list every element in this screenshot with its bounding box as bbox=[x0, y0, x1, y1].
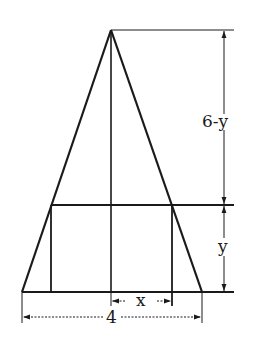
triangle-left-side bbox=[22, 30, 111, 292]
label-y: y bbox=[217, 236, 228, 256]
triangle-rectangle-diagram: 6-y y x 4 bbox=[0, 0, 253, 338]
label-x: x bbox=[136, 290, 146, 310]
label-4: 4 bbox=[106, 307, 117, 327]
label-6-y: 6-y bbox=[202, 111, 229, 131]
triangle-right-side bbox=[111, 30, 202, 292]
triangle bbox=[22, 30, 234, 292]
